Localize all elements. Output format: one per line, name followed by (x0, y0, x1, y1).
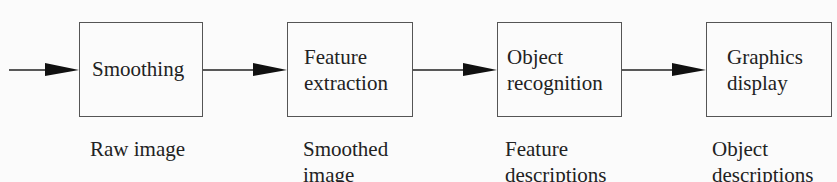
stage-label-line: recognition (507, 70, 621, 96)
caption-line: descriptions (505, 162, 606, 182)
arrowhead-icon (672, 63, 706, 76)
caption-feature-descriptions: Feature descriptions (505, 136, 606, 182)
stage-label-line: Graphics (727, 44, 831, 70)
stage-label-line: Object (507, 44, 621, 70)
pipeline-diagram: Smoothing Raw image Feature extraction S… (0, 0, 837, 182)
stage-box-object-recognition: Object recognition (497, 22, 622, 117)
stage-box-graphics-display: Graphics display (706, 22, 832, 117)
arrowhead-icon (45, 63, 79, 76)
caption-raw-image: Raw image (90, 136, 185, 162)
stage-label-line: Feature (304, 44, 412, 70)
stage-label-line: extraction (304, 70, 412, 96)
arrowhead-icon (463, 63, 497, 76)
caption-object-descriptions: Object descriptions (712, 136, 813, 182)
arrowhead-icon (253, 63, 287, 76)
stage-label: Feature extraction (304, 44, 412, 96)
caption-line: Smoothed (303, 136, 388, 162)
caption-line: Feature (505, 136, 606, 162)
caption-line: descriptions (712, 162, 813, 182)
caption-smoothed-image: Smoothed image (303, 136, 388, 182)
stage-label-line: display (727, 70, 831, 96)
stage-box-smoothing: Smoothing (79, 22, 203, 117)
caption-line: Object (712, 136, 813, 162)
caption-line: Raw image (90, 136, 185, 162)
stage-label: Graphics display (727, 44, 831, 96)
stage-label: Object recognition (507, 44, 621, 96)
caption-line: image (303, 162, 388, 182)
stage-box-feature-extraction: Feature extraction (287, 22, 413, 117)
stage-label: Smoothing (92, 56, 202, 82)
